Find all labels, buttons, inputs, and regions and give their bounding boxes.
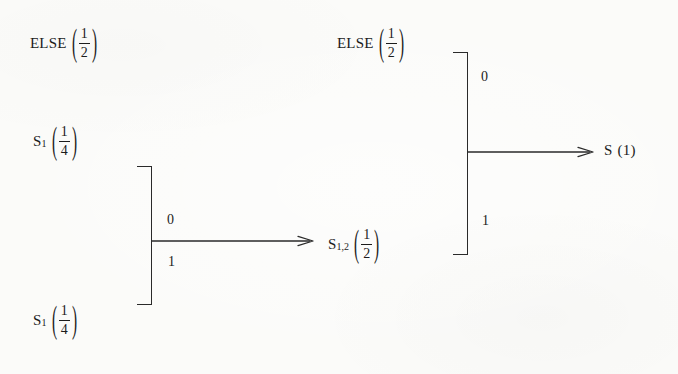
fraction-numerator: 1: [60, 124, 69, 139]
fraction-bar: [386, 43, 397, 44]
fraction-numerator: 1: [362, 227, 371, 242]
node-s1-bottom-subscript: 1: [42, 318, 47, 328]
edge-label-right-zero: 0: [481, 70, 488, 84]
node-s12-middle-subscript: 1,2: [337, 242, 350, 252]
node-s1-top: S1 ( 1 4 ): [33, 124, 77, 158]
fraction: 1 4: [59, 303, 70, 337]
node-else-left: ELSE ( 1 2 ): [30, 26, 97, 60]
node-else-right-probability: ( 1 2 ): [379, 26, 404, 60]
bracket-bottom-stub: [137, 304, 152, 305]
fraction-bar: [361, 244, 372, 245]
fraction: 1 2: [386, 26, 397, 60]
open-paren-icon: (: [379, 24, 384, 62]
node-s1-top-probability: ( 1 4 ): [52, 124, 77, 158]
arrow-left-to-middle-glyph: [152, 236, 314, 246]
fraction-denominator: 2: [387, 45, 396, 60]
fraction: 1 2: [79, 26, 90, 60]
close-paren-icon: ): [72, 301, 77, 339]
arrow-left-to-middle: [152, 236, 314, 246]
bracket-top-stub: [137, 166, 152, 167]
bracket-top-stub: [453, 52, 468, 53]
diagram-canvas: ELSE ( 1 2 ) S1 ( 1 4 ) S1 (: [0, 0, 678, 374]
open-paren-icon: (: [72, 24, 77, 62]
left-merge-bracket: [137, 166, 153, 305]
open-paren-icon: (: [51, 122, 56, 160]
node-s1-bottom-probability: ( 1 4 ): [52, 303, 77, 337]
edge-label-left-one: 1: [168, 255, 175, 269]
fraction: 1 4: [59, 124, 70, 158]
fraction: 1 2: [361, 227, 372, 261]
bracket-bottom-stub: [453, 254, 468, 255]
node-else-left-label: ELSE: [30, 36, 67, 51]
node-s1-bottom: S1 ( 1 4 ): [33, 303, 77, 337]
close-paren-icon: ): [399, 24, 404, 62]
open-paren-icon: (: [354, 225, 359, 263]
right-merge-bracket: [453, 52, 469, 255]
fraction-bar: [79, 43, 90, 44]
fraction-denominator: 4: [60, 322, 69, 337]
fraction-denominator: 2: [362, 246, 371, 261]
fraction-numerator: 1: [387, 26, 396, 41]
fraction-numerator: 1: [60, 303, 69, 318]
node-s12-middle-label: S: [328, 237, 337, 252]
arrow-right-to-final-glyph: [468, 147, 594, 157]
fraction-bar: [59, 141, 70, 142]
node-s-final-probability: (1): [618, 143, 636, 158]
fraction-numerator: 1: [80, 26, 89, 41]
edge-label-right-one: 1: [482, 214, 489, 228]
node-s1-top-subscript: 1: [42, 139, 47, 149]
node-s12-middle: S1,2 ( 1 2 ): [328, 227, 379, 261]
edge-label-left-zero: 0: [167, 213, 174, 227]
node-s-final: S (1): [604, 143, 636, 158]
node-else-right-label: ELSE: [337, 36, 374, 51]
close-paren-icon: ): [72, 122, 77, 160]
node-s12-middle-probability: ( 1 2 ): [354, 227, 379, 261]
close-paren-icon: ): [374, 225, 379, 263]
node-else-left-probability: ( 1 2 ): [72, 26, 97, 60]
node-s1-bottom-label: S: [33, 313, 42, 328]
fraction-bar: [59, 320, 70, 321]
arrow-right-to-final: [468, 147, 594, 157]
node-s1-top-label: S: [33, 134, 42, 149]
node-else-right: ELSE ( 1 2 ): [337, 26, 404, 60]
fraction-denominator: 2: [80, 45, 89, 60]
fraction-denominator: 4: [60, 143, 69, 158]
node-s-final-label: S: [604, 143, 613, 158]
open-paren-icon: (: [51, 301, 56, 339]
close-paren-icon: ): [92, 24, 97, 62]
